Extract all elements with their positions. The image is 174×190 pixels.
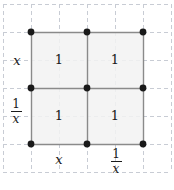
vertex-dot (84, 29, 91, 36)
vertex-dot (28, 141, 35, 148)
vertex-dot (84, 141, 91, 148)
vertex-dot (140, 29, 147, 36)
edge-label-bottom-left: x (52, 153, 66, 166)
fraction-numerator: 1 (108, 148, 124, 161)
vertex-dot (140, 85, 147, 92)
fraction-denominator: x (8, 112, 24, 125)
edge-label-left-upper: x (10, 54, 24, 67)
vertex-dot (84, 85, 91, 92)
cell-area-label-bottom-left: 1 (52, 109, 66, 122)
fraction-numerator: 1 (8, 98, 24, 111)
edge-label-left-lower: 1 x (8, 98, 24, 125)
vertex-dot (28, 29, 35, 36)
fraction-denominator: x (108, 162, 124, 175)
vertex-dot (140, 141, 147, 148)
geometry-diagram (0, 0, 174, 190)
edge-label-bottom-right: 1 x (108, 148, 124, 175)
cell-area-label-top-right: 1 (108, 53, 122, 66)
cell-area-label-top-left: 1 (52, 53, 66, 66)
figure-container: 1 1 1 1 x 1 x x 1 x (0, 0, 174, 190)
vertex-dot (28, 85, 35, 92)
cell-area-label-bottom-right: 1 (108, 109, 122, 122)
